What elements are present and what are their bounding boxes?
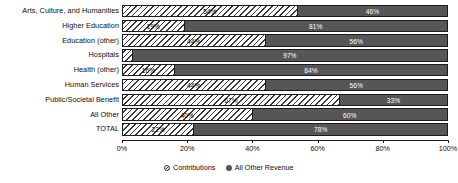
x-axis-tick	[252, 140, 253, 143]
bar-track: 44%56%	[122, 34, 448, 46]
category-label: Human Services	[0, 81, 122, 89]
bar-segment-all-other-revenue: 33%	[340, 95, 447, 105]
x-axis-tick	[122, 140, 123, 143]
bar-value-label: 56%	[350, 37, 363, 44]
legend-label: Contributions	[173, 163, 215, 172]
bar-value-label: 33%	[387, 96, 400, 103]
bar-value-label: 19%	[146, 22, 160, 29]
bar-value-label: 60%	[343, 111, 356, 118]
category-label: Education (other)	[0, 37, 122, 45]
category-label: Higher Education	[0, 22, 122, 30]
bar-value-label: 78%	[314, 126, 327, 133]
x-axis-tick-label: 0%	[117, 144, 127, 153]
bar-segment-all-other-revenue: 56%	[266, 80, 447, 90]
bar-row: All Other40%60%	[0, 107, 458, 121]
bar-row: Hospitals3%97%	[0, 48, 458, 62]
bar-segment-contributions: 40%	[123, 109, 253, 119]
bar-segment-all-other-revenue: 84%	[175, 65, 447, 75]
bar-segment-all-other-revenue: 81%	[185, 21, 447, 31]
bar-segment-all-other-revenue: 56%	[266, 35, 447, 45]
x-axis-tick-label: 40%	[245, 144, 259, 153]
bar-value-label: 46%	[366, 8, 379, 15]
solid-circle-icon	[226, 165, 232, 171]
bar-row: Health (other)16%84%	[0, 63, 458, 77]
bar-track: 67%33%	[122, 94, 448, 106]
bar-segment-contributions: 22%	[123, 124, 194, 134]
x-axis-tick	[448, 140, 449, 143]
category-label: Arts, Culture, and Humanities	[0, 7, 122, 15]
category-label: Health (other)	[0, 66, 122, 74]
bar-value-label: 44%	[187, 37, 201, 44]
stacked-bar-chart: Arts, Culture, and Humanities54%46%Highe…	[0, 0, 458, 183]
bar-value-label: 97%	[283, 52, 296, 59]
x-axis-tick-label: 60%	[310, 144, 324, 153]
bar-segment-contributions: 3%	[123, 50, 133, 60]
bar-segment-all-other-revenue: 46%	[298, 6, 447, 16]
bar-rows: Arts, Culture, and Humanities54%46%Highe…	[0, 4, 458, 137]
category-label: All Other	[0, 111, 122, 119]
bar-track: 44%56%	[122, 79, 448, 91]
bar-segment-all-other-revenue: 60%	[253, 109, 447, 119]
bar-row: Human Services44%56%	[0, 78, 458, 92]
bar-value-label: 40%	[180, 111, 194, 118]
bar-value-label: 81%	[309, 22, 322, 29]
legend-label: All Other Revenue	[235, 163, 294, 172]
bar-segment-contributions: 44%	[123, 80, 266, 90]
legend-item: All Other Revenue	[226, 163, 293, 172]
bar-value-label: 84%	[304, 67, 317, 74]
bar-segment-contributions: 19%	[123, 21, 185, 31]
x-axis-tick-label: 80%	[376, 144, 390, 153]
bar-value-label: 44%	[187, 81, 201, 88]
bar-segment-contributions: 67%	[123, 95, 340, 105]
bar-segment-contributions: 16%	[123, 65, 175, 75]
bar-track: 19%81%	[122, 20, 448, 32]
bar-row: TOTAL22%78%	[0, 122, 458, 136]
x-axis-tick-label: 20%	[180, 144, 194, 153]
bar-track: 54%46%	[122, 5, 448, 17]
x-axis-tick	[318, 140, 319, 143]
bar-segment-all-other-revenue: 97%	[133, 50, 447, 60]
category-label: Public/Societal Benefit	[0, 96, 122, 104]
plot-area: Arts, Culture, and Humanities54%46%Highe…	[0, 4, 458, 144]
bar-value-label: 54%	[203, 8, 217, 15]
x-axis-tick	[187, 140, 188, 143]
x-axis-tick-label: 100%	[439, 144, 457, 153]
bar-value-label: 56%	[350, 81, 363, 88]
bar-segment-contributions: 44%	[123, 35, 266, 45]
x-axis-line	[122, 140, 448, 141]
bar-track: 3%97%	[122, 49, 448, 61]
bar-value-label: 22%	[151, 126, 165, 133]
bar-row: Higher Education19%81%	[0, 19, 458, 33]
chart-legend: ContributionsAll Other Revenue	[0, 163, 458, 172]
bar-row: Education (other)44%56%	[0, 34, 458, 48]
bar-row: Arts, Culture, and Humanities54%46%	[0, 4, 458, 18]
x-axis: 0%20%40%60%80%100%	[122, 140, 448, 158]
bar-track: 40%60%	[122, 108, 448, 120]
legend-item: Contributions	[164, 163, 215, 172]
x-axis-tick	[383, 140, 384, 143]
bar-segment-contributions: 54%	[123, 6, 298, 16]
bar-value-label: 67%	[224, 96, 238, 103]
bar-value-label: 16%	[141, 67, 155, 74]
category-label: Hospitals	[0, 51, 122, 59]
bar-row: Public/Societal Benefit67%33%	[0, 93, 458, 107]
category-label: TOTAL	[0, 125, 122, 133]
bar-track: 22%78%	[122, 123, 448, 135]
bar-track: 16%84%	[122, 64, 448, 76]
hatched-circle-icon	[164, 165, 170, 171]
bar-segment-all-other-revenue: 78%	[194, 124, 447, 134]
